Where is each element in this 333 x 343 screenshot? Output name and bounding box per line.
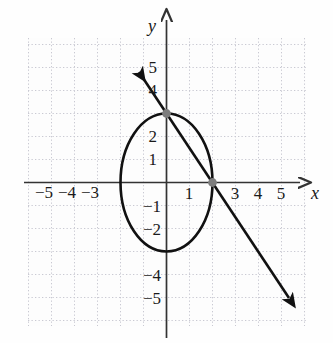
y-axis-label: y <box>146 16 156 36</box>
ytick-label-5: 5 <box>149 58 158 77</box>
xtick-label--4: −4 <box>58 183 77 202</box>
xtick-label--5: −5 <box>35 183 53 202</box>
ytick-label-2: 2 <box>149 127 158 146</box>
xtick-label-1: 1 <box>185 184 194 203</box>
ytick-label--2: −2 <box>143 220 161 239</box>
xtick-label-3: 3 <box>231 184 240 203</box>
intersection-point-2-0 <box>208 178 217 187</box>
ytick-label-4: 4 <box>149 81 158 100</box>
ytick-label--5: −5 <box>143 289 161 308</box>
ytick-label-1: 1 <box>149 150 158 169</box>
x-axis-label: x <box>310 183 319 203</box>
coordinate-plane: −5 −4 −3 1 3 4 5 5 4 2 1 −1 −2 −4 −5 y x <box>0 0 333 343</box>
xtick-label--3: −3 <box>81 183 99 202</box>
xtick-label-5: 5 <box>277 184 286 203</box>
graph-figure: −5 −4 −3 1 3 4 5 5 4 2 1 −1 −2 −4 −5 y x <box>0 0 333 343</box>
ytick-label--1: −1 <box>143 197 161 216</box>
intersection-point-0-3 <box>162 109 171 118</box>
xtick-label-4: 4 <box>254 184 263 203</box>
ytick-label--4: −4 <box>143 266 162 285</box>
